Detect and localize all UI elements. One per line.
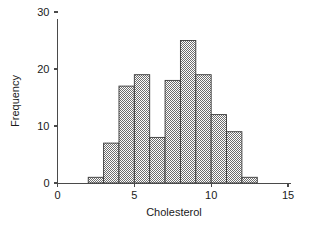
y-axis-title: Frequency — [9, 75, 21, 127]
plot-background — [0, 0, 316, 234]
y-tick-label: 10 — [37, 120, 49, 132]
histogram-bar — [134, 75, 149, 183]
y-tick-label: 30 — [37, 6, 49, 18]
x-axis-title: Cholesterol — [146, 206, 202, 218]
x-tick-label: 15 — [282, 189, 294, 201]
y-tick-label: 0 — [43, 177, 49, 189]
histogram-bar — [165, 80, 180, 183]
histogram-plot: 0102030 051015 Cholesterol Frequency — [0, 0, 316, 234]
histogram-bar — [119, 86, 134, 183]
histogram-bar — [104, 143, 119, 183]
x-tick-label: 0 — [54, 189, 60, 201]
histogram-bar — [242, 177, 257, 183]
histogram-bar — [211, 115, 226, 183]
y-tick-label: 20 — [37, 63, 49, 75]
histogram-bar — [88, 177, 103, 183]
histogram-bar — [196, 75, 211, 183]
x-tick-label: 10 — [205, 189, 217, 201]
histogram-figure: 0102030 051015 Cholesterol Frequency — [0, 0, 316, 234]
histogram-bar — [180, 41, 195, 184]
histogram-bar — [150, 137, 165, 183]
histogram-bar — [227, 132, 242, 183]
x-tick-label: 5 — [131, 189, 137, 201]
